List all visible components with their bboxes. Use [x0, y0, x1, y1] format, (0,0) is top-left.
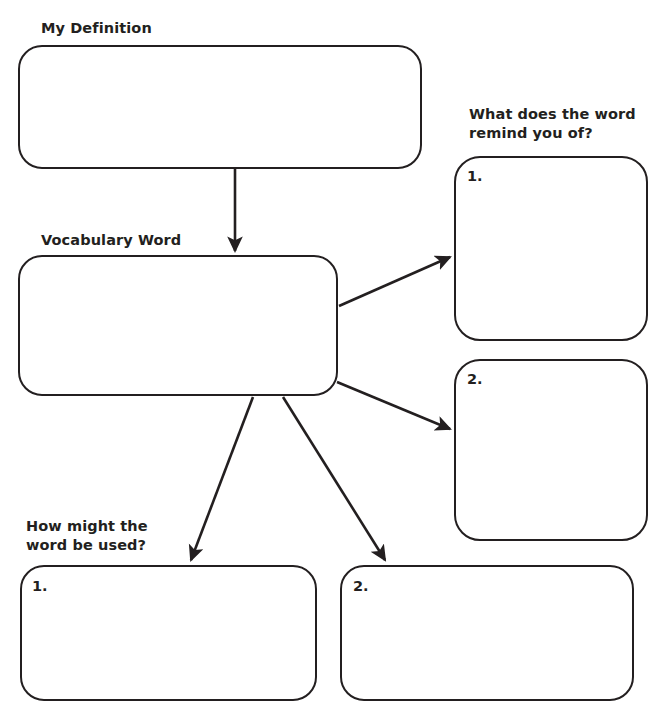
arrow-vocabulary-to-used-1 [191, 397, 253, 560]
label-how-might-the-word-be-used: How might the word be used? [26, 517, 148, 555]
answer-box-used-1[interactable] [20, 565, 317, 701]
answer-box-vocabulary-word[interactable] [18, 255, 338, 396]
answer-box-remind-1[interactable] [454, 156, 648, 341]
arrow-vocabulary-to-remind-2 [337, 382, 450, 429]
box-number-remind-1: 1. [467, 168, 483, 184]
worksheet-canvas: My Definition Vocabulary Word What does … [0, 0, 666, 716]
box-number-remind-2: 2. [467, 371, 483, 387]
box-number-used-2: 2. [353, 578, 369, 594]
arrow-vocabulary-to-used-2 [283, 397, 385, 560]
label-vocabulary-word: Vocabulary Word [41, 231, 181, 250]
box-number-used-1: 1. [32, 578, 48, 594]
answer-box-my-definition[interactable] [18, 45, 422, 169]
arrow-vocabulary-to-remind-1 [339, 257, 450, 306]
label-my-definition: My Definition [41, 19, 152, 38]
answer-box-used-2[interactable] [340, 565, 634, 701]
label-what-does-the-word-remind-you-of: What does the word remind you of? [469, 105, 636, 143]
answer-box-remind-2[interactable] [454, 359, 648, 541]
